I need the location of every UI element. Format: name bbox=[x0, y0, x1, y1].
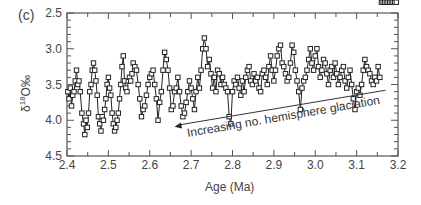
data-marker bbox=[109, 93, 113, 97]
data-marker bbox=[101, 118, 105, 122]
data-marker bbox=[83, 132, 87, 136]
data-marker bbox=[167, 86, 171, 90]
data-marker bbox=[230, 89, 234, 93]
data-marker bbox=[86, 111, 90, 115]
x-tick-label: 2.8 bbox=[224, 158, 241, 172]
x-tick-label: 2.6 bbox=[141, 158, 158, 172]
data-marker bbox=[156, 118, 160, 122]
data-marker bbox=[151, 68, 155, 72]
data-marker bbox=[308, 47, 312, 51]
data-marker bbox=[313, 54, 317, 58]
data-marker bbox=[376, 64, 380, 68]
x-tick-label: 3.0 bbox=[307, 158, 324, 172]
data-marker bbox=[344, 86, 348, 90]
data-marker bbox=[349, 82, 353, 86]
data-marker bbox=[130, 72, 134, 76]
data-marker bbox=[359, 82, 363, 86]
data-marker bbox=[121, 54, 125, 58]
data-marker bbox=[300, 86, 304, 90]
data-marker bbox=[69, 104, 73, 108]
data-marker bbox=[120, 64, 124, 68]
data-marker bbox=[164, 57, 168, 61]
data-marker bbox=[162, 50, 166, 54]
annotation-arrow: Increasing no. hemisphere glaciation bbox=[175, 90, 386, 140]
data-marker bbox=[268, 54, 272, 58]
data-marker bbox=[184, 100, 188, 104]
data-marker bbox=[80, 111, 84, 115]
data-marker bbox=[341, 64, 345, 68]
data-marker bbox=[104, 97, 108, 101]
data-marker bbox=[85, 125, 89, 129]
data-marker bbox=[394, 0, 398, 4]
y-axis-label-sup: 18 bbox=[18, 96, 27, 105]
data-marker bbox=[139, 114, 143, 118]
plot-frame bbox=[67, 13, 398, 156]
data-marker bbox=[102, 107, 106, 111]
data-marker bbox=[282, 64, 286, 68]
data-marker bbox=[187, 79, 191, 83]
data-marker bbox=[153, 82, 157, 86]
data-marker bbox=[189, 86, 193, 90]
data-marker bbox=[378, 75, 382, 79]
data-marker bbox=[157, 100, 161, 104]
data-marker bbox=[197, 86, 201, 90]
y-tick-label: 4.5 bbox=[45, 149, 62, 163]
data-marker bbox=[258, 89, 262, 93]
data-marker bbox=[242, 89, 246, 93]
data-marker bbox=[237, 86, 241, 90]
data-marker bbox=[235, 75, 239, 79]
data-marker bbox=[146, 82, 150, 86]
data-marker bbox=[116, 111, 120, 115]
data-marker bbox=[202, 36, 206, 40]
data-marker bbox=[346, 75, 350, 79]
data-marker bbox=[166, 68, 170, 72]
data-marker bbox=[72, 89, 76, 93]
data-marker bbox=[263, 75, 267, 79]
data-marker bbox=[114, 125, 118, 129]
data-marker bbox=[311, 68, 315, 72]
data-marker bbox=[91, 61, 95, 65]
data-marker bbox=[348, 68, 352, 72]
data-marker bbox=[107, 86, 111, 90]
data-marker bbox=[273, 68, 277, 72]
data-marker bbox=[182, 111, 186, 115]
data-marker bbox=[247, 64, 251, 68]
data-marker bbox=[265, 82, 269, 86]
data-marker bbox=[293, 68, 297, 72]
data-marker bbox=[295, 79, 299, 83]
data-marker bbox=[138, 97, 142, 101]
data-marker bbox=[106, 75, 110, 79]
data-marker bbox=[305, 68, 309, 72]
data-marker bbox=[214, 89, 218, 93]
data-marker bbox=[303, 75, 307, 79]
data-marker bbox=[196, 75, 200, 79]
y-axis-label-delta: δ bbox=[19, 105, 33, 112]
data-marker bbox=[192, 107, 196, 111]
data-marker bbox=[204, 47, 208, 51]
data-marker bbox=[179, 104, 183, 108]
data-marker bbox=[207, 57, 211, 61]
y-tick-label: 3.0 bbox=[45, 42, 62, 56]
x-tick-label: 2.5 bbox=[100, 158, 117, 172]
data-marker bbox=[144, 93, 148, 97]
x-axis-label: Age (Ma) bbox=[205, 180, 254, 194]
data-marker bbox=[78, 89, 82, 93]
y-axis-label-rest: O‰ bbox=[19, 75, 33, 96]
data-marker bbox=[176, 75, 180, 79]
data-marker bbox=[74, 68, 78, 72]
x-tick-label: 3.1 bbox=[348, 158, 365, 172]
data-marker bbox=[177, 89, 181, 93]
data-marker bbox=[84, 118, 88, 122]
data-marker bbox=[110, 111, 114, 115]
data-marker bbox=[129, 79, 133, 83]
data-marker bbox=[292, 50, 296, 54]
x-tick-label: 2.9 bbox=[266, 158, 283, 172]
data-marker bbox=[220, 75, 224, 79]
data-marker bbox=[93, 68, 97, 72]
x-tick-label: 2.7 bbox=[183, 158, 200, 172]
data-marker bbox=[89, 82, 93, 86]
data-marker bbox=[95, 93, 99, 97]
data-marker bbox=[125, 89, 129, 93]
data-marker bbox=[272, 79, 276, 83]
data-marker bbox=[199, 68, 203, 72]
